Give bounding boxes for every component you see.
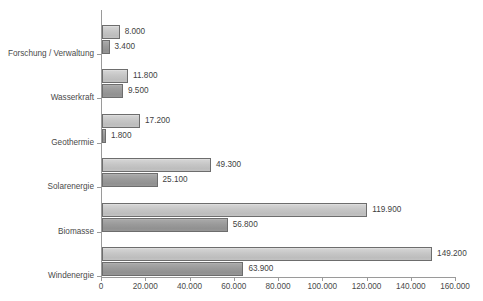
bar-value-label: 9.500	[128, 87, 149, 95]
category-group: 17.2001.800Geothermie	[101, 99, 455, 144]
x-axis-tick	[367, 277, 368, 281]
category-label: Solarenergie	[48, 183, 94, 191]
bar-value-label: 8.000	[125, 27, 146, 35]
bar-series-b[interactable]	[102, 218, 228, 232]
bar-value-label: 3.400	[115, 42, 136, 50]
category-group: 11.8009.500Wasserkraft	[101, 55, 455, 100]
bar-series-a[interactable]	[102, 247, 432, 261]
bar-row: 11.800	[102, 69, 456, 83]
x-axis-label: 40.000	[177, 283, 202, 291]
bar-chart: 8.0003.400Forschung / Verwaltung11.8009.…	[0, 0, 483, 301]
category-label: Geothermie	[51, 139, 94, 147]
category-group: 49.30025.100Solarenergie	[101, 144, 455, 189]
x-axis-tick	[322, 277, 323, 281]
x-axis-label: 100.000	[307, 283, 337, 291]
x-axis-tick	[145, 277, 146, 281]
x-axis-label: 80.000	[265, 283, 290, 291]
bar-row: 63.900	[102, 262, 456, 276]
category-group: 119.90056.800Biomasse	[101, 188, 455, 233]
bar-series-a[interactable]	[102, 203, 367, 217]
x-axis-label: 60.000	[221, 283, 246, 291]
bar-series-a[interactable]	[102, 25, 120, 39]
bar-series-b[interactable]	[102, 40, 110, 54]
category-label: Forschung / Verwaltung	[8, 50, 94, 58]
x-axis-tick	[190, 277, 191, 281]
bar-row: 8.000	[102, 25, 456, 39]
bar-row: 56.800	[102, 218, 456, 232]
bar-row: 3.400	[102, 40, 456, 54]
bar-value-label: 11.800	[133, 72, 157, 80]
x-axis-tick	[234, 277, 235, 281]
category-label: Biomasse	[58, 228, 94, 236]
bar-value-label: 119.900	[372, 205, 401, 213]
bar-row: 149.200	[102, 247, 456, 261]
x-axis-tick	[455, 277, 456, 281]
category-group: 149.20063.900Windenergie	[101, 233, 455, 278]
bar-row: 25.100	[102, 173, 456, 187]
x-axis-label: 0	[99, 283, 104, 291]
x-axis-label: 160.000	[440, 283, 470, 291]
bar-value-label: 56.800	[233, 220, 258, 228]
bar-value-label: 25.100	[163, 176, 188, 184]
bar-value-label: 149.200	[437, 250, 467, 258]
x-axis-tick	[411, 277, 412, 281]
bar-value-label: 1.800	[111, 131, 132, 139]
bar-row: 1.800	[102, 129, 456, 143]
x-axis-label: 140.000	[396, 283, 426, 291]
bar-value-label: 17.200	[145, 116, 170, 124]
bar-series-b[interactable]	[102, 129, 106, 143]
bar-row: 9.500	[102, 84, 456, 98]
bar-series-b[interactable]	[102, 84, 123, 98]
x-axis-label: 20.000	[133, 283, 158, 291]
bar-series-a[interactable]	[102, 114, 140, 128]
bar-row: 119.900	[102, 203, 456, 217]
bar-series-a[interactable]	[102, 158, 211, 172]
bar-value-label: 63.900	[248, 265, 273, 273]
category-group: 8.0003.400Forschung / Verwaltung	[101, 10, 455, 55]
category-label: Windenergie	[48, 272, 94, 280]
x-axis-tick	[101, 277, 102, 281]
bar-series-b[interactable]	[102, 173, 158, 187]
bar-value-label: 49.300	[216, 161, 241, 169]
bar-series-b[interactable]	[102, 262, 243, 276]
x-axis-label: 120.000	[352, 283, 382, 291]
bar-row: 17.200	[102, 114, 456, 128]
bar-row: 49.300	[102, 158, 456, 172]
plot-area: 8.0003.400Forschung / Verwaltung11.8009.…	[101, 10, 455, 277]
bar-series-a[interactable]	[102, 69, 128, 83]
x-axis-tick	[278, 277, 279, 281]
category-label: Wasserkraft	[51, 94, 94, 102]
